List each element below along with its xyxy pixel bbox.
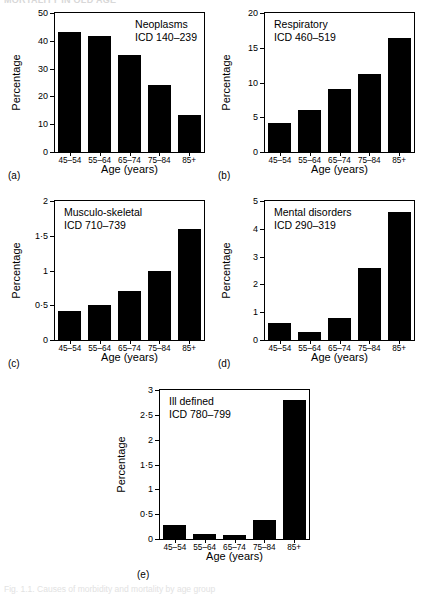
y-tick-a-2 bbox=[50, 96, 55, 97]
chart-panel-a: Percentage Neoplasms ICD 140–239 0102030… bbox=[8, 8, 213, 183]
bar-d-0 bbox=[268, 323, 291, 340]
y-tick-label-e-1: 0·5 bbox=[140, 510, 153, 519]
y-tick-label-d-1: 1 bbox=[253, 308, 258, 317]
bar-c-4 bbox=[178, 229, 201, 340]
bar-b-3 bbox=[358, 74, 381, 152]
panel-label-c: (c) bbox=[8, 359, 20, 369]
y-tick-label-b-1: 5 bbox=[253, 113, 258, 122]
plot-area-a: Neoplasms ICD 140–239 0102030405045–5455… bbox=[54, 12, 205, 153]
bar-b-1 bbox=[298, 110, 321, 152]
y-tick-label-a-0: 0 bbox=[43, 148, 48, 157]
plot-area-b: Respiratory ICD 460–519 0510152045–5455–… bbox=[264, 12, 415, 153]
y-tick-label-a-1: 10 bbox=[38, 120, 48, 129]
y-tick-d-4 bbox=[260, 229, 265, 230]
panel-label-d: (d) bbox=[218, 359, 230, 369]
y-tick-label-d-3: 3 bbox=[253, 252, 258, 261]
bar-series-e bbox=[160, 390, 309, 539]
bar-c-3 bbox=[148, 271, 171, 341]
y-tick-label-c-1: 0·5 bbox=[35, 301, 48, 310]
y-axis-title-c: Percentage bbox=[8, 200, 24, 341]
y-tick-d-1 bbox=[260, 312, 265, 313]
chart-panel-e: Percentage Ill defined ICD 780–799 00·51… bbox=[113, 385, 318, 570]
y-tick-e-0 bbox=[155, 539, 160, 540]
y-tick-label-c-2: 1 bbox=[43, 266, 48, 275]
y-tick-e-3 bbox=[155, 465, 160, 466]
bar-e-4 bbox=[283, 400, 306, 539]
x-axis-title-a: Age (years) bbox=[54, 164, 205, 175]
bar-b-2 bbox=[328, 89, 351, 152]
y-tick-label-a-3: 30 bbox=[38, 64, 48, 73]
plot-area-e: Ill defined ICD 780–799 00·511·522·5345–… bbox=[159, 389, 310, 540]
running-head-cut: MORTALITY IN OLD AGE bbox=[4, 0, 204, 6]
y-tick-label-b-4: 20 bbox=[248, 9, 258, 18]
y-tick-label-c-4: 2 bbox=[43, 197, 48, 206]
y-tick-label-a-5: 50 bbox=[38, 9, 48, 18]
y-axis-title-d: Percentage bbox=[218, 200, 234, 341]
bar-c-2 bbox=[118, 291, 141, 340]
y-tick-a-0 bbox=[50, 152, 55, 153]
y-tick-label-b-3: 15 bbox=[248, 43, 258, 52]
bar-a-0 bbox=[58, 32, 81, 152]
y-tick-d-2 bbox=[260, 284, 265, 285]
y-tick-label-c-0: 0 bbox=[43, 336, 48, 345]
y-tick-c-2 bbox=[50, 271, 55, 272]
y-tick-label-d-4: 4 bbox=[253, 224, 258, 233]
bar-e-0 bbox=[163, 525, 186, 539]
bar-series-b bbox=[265, 13, 414, 152]
panel-label-b: (b) bbox=[218, 171, 230, 181]
y-axis-title-b: Percentage bbox=[218, 12, 234, 153]
bar-series-c bbox=[55, 201, 204, 340]
y-tick-a-3 bbox=[50, 69, 55, 70]
y-tick-label-e-3: 1·5 bbox=[140, 460, 153, 469]
y-tick-label-d-2: 2 bbox=[253, 280, 258, 289]
y-tick-e-1 bbox=[155, 514, 160, 515]
y-tick-e-4 bbox=[155, 440, 160, 441]
y-tick-label-a-2: 20 bbox=[38, 92, 48, 101]
y-tick-d-5 bbox=[260, 201, 265, 202]
panel-label-e: (e) bbox=[137, 570, 149, 580]
y-tick-label-d-0: 0 bbox=[253, 336, 258, 345]
bar-e-3 bbox=[253, 520, 276, 539]
chart-panel-c: Percentage Musculo-skeletal ICD 710–739 … bbox=[8, 196, 213, 371]
y-tick-d-3 bbox=[260, 257, 265, 258]
y-tick-d-0 bbox=[260, 340, 265, 341]
y-tick-e-6 bbox=[155, 390, 160, 391]
y-axis-title-e: Percentage bbox=[113, 389, 129, 540]
bar-c-0 bbox=[58, 311, 81, 340]
bar-d-4 bbox=[388, 212, 411, 340]
x-axis-title-d: Age (years) bbox=[264, 352, 415, 363]
y-tick-e-5 bbox=[155, 415, 160, 416]
bar-series-d bbox=[265, 201, 414, 340]
bar-a-1 bbox=[88, 36, 111, 152]
bar-c-1 bbox=[88, 305, 111, 340]
y-tick-b-3 bbox=[260, 48, 265, 49]
plot-area-c: Musculo-skeletal ICD 710–739 00·511·5245… bbox=[54, 200, 205, 341]
y-tick-e-2 bbox=[155, 489, 160, 490]
y-tick-a-1 bbox=[50, 124, 55, 125]
y-tick-label-e-2: 1 bbox=[148, 485, 153, 494]
y-tick-a-5 bbox=[50, 13, 55, 14]
x-axis-title-c: Age (years) bbox=[54, 352, 205, 363]
bar-b-4 bbox=[388, 38, 411, 152]
y-tick-label-d-5: 5 bbox=[253, 197, 258, 206]
bar-a-2 bbox=[118, 55, 141, 152]
bar-d-2 bbox=[328, 318, 351, 340]
y-tick-label-e-4: 2 bbox=[148, 435, 153, 444]
plot-area-d: Mental disorders ICD 290–319 01234545–54… bbox=[264, 200, 415, 341]
bar-a-3 bbox=[148, 85, 171, 152]
chart-panel-d: Percentage Mental disorders ICD 290–319 … bbox=[218, 196, 423, 371]
y-tick-label-e-6: 3 bbox=[148, 386, 153, 395]
bar-series-a bbox=[55, 13, 204, 152]
x-axis-title-e: Age (years) bbox=[159, 551, 310, 562]
panel-label-a: (a) bbox=[8, 171, 20, 181]
y-tick-label-c-3: 1·5 bbox=[35, 231, 48, 240]
y-tick-b-0 bbox=[260, 152, 265, 153]
y-tick-label-a-4: 40 bbox=[38, 36, 48, 45]
bar-a-4 bbox=[178, 115, 201, 152]
bar-d-3 bbox=[358, 268, 381, 340]
y-axis-title-a: Percentage bbox=[8, 12, 24, 153]
y-tick-b-1 bbox=[260, 117, 265, 118]
bar-d-1 bbox=[298, 332, 321, 340]
chart-panel-b: Percentage Respiratory ICD 460–519 05101… bbox=[218, 8, 423, 183]
y-tick-b-4 bbox=[260, 13, 265, 14]
